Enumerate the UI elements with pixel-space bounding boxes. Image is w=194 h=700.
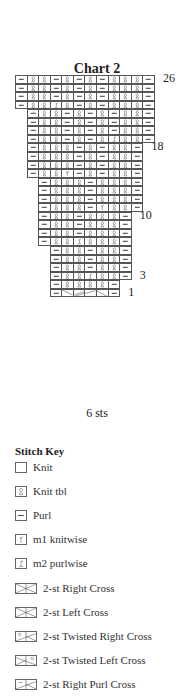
row-number-label: 3 — [140, 268, 146, 283]
purl-cell — [142, 92, 155, 101]
chart-row-8 — [38, 229, 132, 238]
purl-cell — [142, 75, 155, 84]
stitch-key-item-m1-knitwise: m1 knitwise — [15, 533, 87, 545]
chart-row-18 — [27, 143, 144, 152]
chart-row-16 — [27, 161, 144, 170]
chart-row-4 — [50, 263, 132, 272]
2st-right-purl-cross-icon — [15, 679, 37, 690]
stitch-key-title: Stitch Key — [15, 445, 64, 457]
stitch-key-item-knit: Knit — [15, 461, 53, 473]
chart-row-19 — [27, 135, 155, 144]
chart-row-20 — [27, 126, 155, 135]
purl-cell — [119, 220, 132, 229]
purl-cell — [131, 186, 144, 195]
chart-row-3 — [50, 272, 132, 281]
m1-knitwise-icon — [15, 534, 27, 545]
stitch-key-label: 2-st Right Purl Cross — [43, 678, 136, 690]
purl-cell — [119, 263, 132, 272]
chart-row-23 — [15, 101, 155, 110]
chart-row-10 — [38, 212, 132, 221]
stitch-key-label: m2 purlwise — [33, 557, 88, 569]
stitch-key-item-2st-left-cross: 2-st Left Cross — [15, 606, 108, 618]
stitch-key-label: 2-st Twisted Right Cross — [43, 630, 152, 642]
chart-row-11 — [38, 203, 143, 212]
chart-row-26 — [15, 75, 155, 84]
2st-right-cross-icon — [15, 583, 37, 594]
purl-cell — [119, 212, 132, 221]
chart-row-6 — [50, 246, 132, 255]
chart-row-9 — [38, 220, 132, 229]
purl-cell — [119, 272, 132, 281]
chart-row-7 — [38, 237, 132, 246]
purl-cell — [131, 195, 144, 204]
purl-cell — [119, 255, 132, 264]
chart-row-1 — [50, 289, 120, 298]
chart-row-2 — [50, 280, 120, 289]
stitch-key-label: Purl — [33, 509, 51, 521]
purl-cell — [119, 246, 132, 255]
purl-cell — [142, 101, 155, 110]
2st-left-cross-icon — [15, 607, 37, 618]
knitting-chart: 26181031 — [0, 75, 194, 415]
purl-icon — [15, 510, 27, 521]
stitch-key-item-2st-twisted-right-cross: 2-st Twisted Right Cross — [15, 630, 152, 642]
purl-cell — [131, 169, 144, 178]
knit-icon — [15, 462, 27, 473]
chart-row-24 — [15, 92, 155, 101]
purl-cell — [108, 280, 121, 289]
purl-cell — [131, 161, 144, 170]
knit-tbl-icon — [15, 486, 27, 497]
purl-cell — [131, 143, 144, 152]
chart-row-15 — [27, 169, 144, 178]
stitch-key-item-knit-tbl: Knit tbl — [15, 485, 67, 497]
stitch-key-label: 2-st Left Cross — [43, 606, 108, 618]
chart-row-14 — [38, 178, 143, 187]
stitch-key-label: m1 knitwise — [33, 533, 87, 545]
chart-row-17 — [27, 152, 144, 161]
2st-twisted-left-cross-icon — [15, 655, 37, 666]
row-number-label: 10 — [140, 208, 152, 223]
chart-row-22 — [27, 109, 155, 118]
stitch-key-item-purl: Purl — [15, 509, 51, 521]
purl-cell — [108, 289, 121, 298]
row-number-label: 18 — [151, 139, 163, 154]
chart-row-5 — [50, 255, 132, 264]
purl-cell — [119, 229, 132, 238]
purl-cell — [142, 126, 155, 135]
stitch-key-label: 2-st Twisted Left Cross — [43, 654, 146, 666]
chart-row-13 — [38, 186, 143, 195]
purl-cell — [142, 109, 155, 118]
stitch-key-item-m2-purlwise: m2 purlwise — [15, 557, 88, 569]
m2-purlwise-icon — [15, 558, 27, 569]
purl-cell — [142, 84, 155, 93]
row-number-label: 1 — [128, 285, 134, 300]
stitch-key-label: Knit tbl — [33, 485, 67, 497]
stitch-key-label: Knit — [33, 461, 53, 473]
stitch-key-item-2st-right-cross: 2-st Right Cross — [15, 582, 115, 594]
chart-row-21 — [27, 118, 155, 127]
purl-cell — [119, 237, 132, 246]
chart-row-25 — [15, 84, 155, 93]
purl-cell — [142, 118, 155, 127]
chart-row-12 — [38, 195, 143, 204]
stitch-key-label: 2-st Right Cross — [43, 582, 115, 594]
stitch-key-item-2st-right-purl-cross: 2-st Right Purl Cross — [15, 678, 136, 690]
2st-twisted-right-cross-icon — [15, 631, 37, 642]
row-number-label: 26 — [163, 71, 175, 86]
chart-width-label: 6 sts — [0, 406, 194, 421]
purl-cell — [131, 178, 144, 187]
purl-cell — [131, 152, 144, 161]
stitch-key-item-2st-twisted-left-cross: 2-st Twisted Left Cross — [15, 654, 146, 666]
